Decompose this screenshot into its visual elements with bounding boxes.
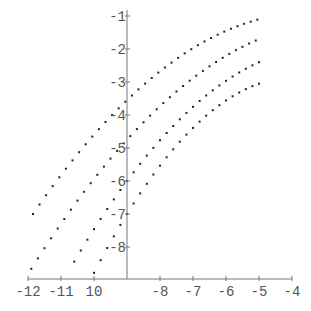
data-point [205,95,207,97]
data-point [96,174,98,176]
data-point [238,92,240,94]
x-tick-label: -8 [152,284,169,300]
data-point [105,121,107,123]
data-point [225,100,227,102]
data-point [143,121,145,123]
data-point [106,208,108,210]
data-point [78,151,80,153]
data-point [57,228,59,230]
data-point [100,259,102,261]
data-point [119,224,121,226]
y-tick-label: -7 [109,207,126,223]
data-point [52,185,54,187]
data-point [248,43,250,45]
data-point [222,57,224,59]
y-tick-label: -8 [109,240,126,256]
data-point [250,21,252,23]
data-point [86,239,88,241]
data-point [171,62,173,64]
data-point [44,247,46,249]
data-point [176,91,178,93]
data-point [184,52,186,54]
data-point [255,40,257,42]
x-tick-label: -7 [185,284,202,300]
data-point [77,200,79,202]
data-point [156,108,158,110]
data-point [232,95,234,97]
data-point [243,23,245,25]
data-point [65,168,67,170]
data-point [223,31,225,33]
data-point [199,121,201,123]
data-point [179,141,181,143]
data-point [98,128,100,130]
data-point [50,237,52,239]
data-point [217,34,219,36]
y-tick-label: -1 [109,9,126,25]
x-tick-label: -6 [218,284,235,300]
data-point [251,85,253,87]
data-point [83,191,85,193]
data-point [212,109,214,111]
data-point [80,250,82,252]
data-point [129,135,131,137]
data-point [245,88,247,90]
data-point [237,25,239,27]
data-point [131,95,133,97]
data-point [106,247,108,249]
x-tick-label: -4 [284,284,301,300]
data-point [232,76,234,78]
data-point [197,44,199,46]
data-point [215,61,217,63]
data-point [152,174,154,176]
data-point [225,80,227,82]
data-point [144,83,146,85]
data-point [172,148,174,150]
data-point [177,57,179,59]
data-point [136,128,138,130]
y-tick-label: -4 [109,108,126,124]
data-point [192,106,194,108]
data-point [210,37,212,39]
data-point [258,61,260,63]
data-point [230,28,232,30]
data-point [149,115,151,117]
data-point [139,163,141,165]
data-point [157,72,159,74]
data-point [218,104,220,106]
data-point [110,158,112,160]
data-point [37,257,39,259]
data-point [63,218,65,220]
data-point [218,84,220,86]
data-point [32,213,34,215]
data-point [151,77,153,79]
data-point [100,218,102,220]
x-tick-label: -11 [48,284,73,300]
y-tick-label: -3 [109,75,126,91]
data-point [146,183,148,185]
data-point [199,100,201,102]
data-point [152,147,154,149]
data-point [30,268,32,270]
data-point [133,171,135,173]
data-point [90,182,92,184]
data-point [192,127,194,129]
data-point [133,203,135,205]
data-point [195,75,197,77]
data-point [146,155,148,157]
data-point [251,64,253,66]
data-point [124,101,126,103]
data-point [185,112,187,114]
data-point [45,194,47,196]
data-points [30,19,260,274]
data-point [72,159,74,161]
data-point [238,72,240,74]
y-tick-label: -5 [109,141,126,157]
data-point [235,49,237,51]
x-tick-label: -12 [15,284,40,300]
data-point [73,261,75,263]
data-point [70,209,72,211]
x-axis-ticks: -12-1110-8-7-6-5-4 [15,276,300,300]
data-point [113,198,115,200]
data-point [164,67,166,69]
